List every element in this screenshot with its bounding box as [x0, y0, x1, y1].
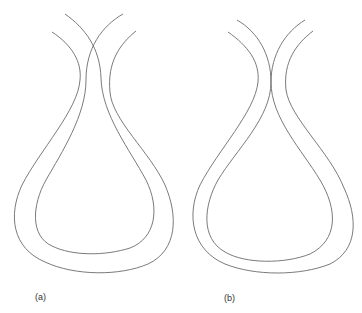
panel-b-label: (b) — [224, 293, 235, 303]
panel-a-label: (a) — [35, 292, 46, 302]
figure: (a) (b) — [0, 0, 362, 313]
diagram-canvas — [0, 0, 362, 313]
panel-b-outer-loop — [193, 31, 353, 273]
panel-a-outer-loop — [14, 31, 173, 273]
panel-a-inner-loop — [35, 14, 153, 254]
panel-b-curves — [193, 20, 353, 273]
panel-b-inner-loop — [207, 20, 333, 261]
panel-a-curves — [14, 14, 173, 273]
